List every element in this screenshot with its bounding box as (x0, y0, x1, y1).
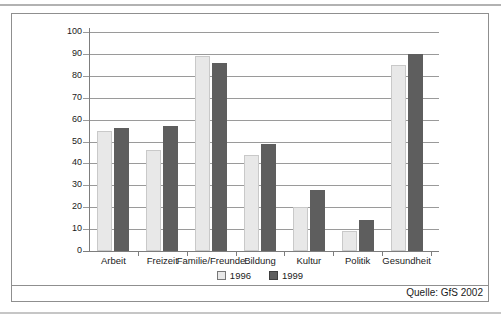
legend: 19961999 (89, 270, 431, 281)
bar-1999-Arbeit (114, 128, 129, 251)
bar-1999-Kultur (310, 190, 325, 251)
bar-1996-Bildung (244, 155, 259, 251)
gridline (83, 54, 439, 55)
page-rule-top (0, 4, 501, 6)
legend-item-1999: 1999 (269, 270, 303, 281)
gridline (83, 32, 439, 33)
legend-swatch (217, 271, 226, 280)
gridline (83, 76, 439, 77)
x-axis-line (83, 251, 439, 252)
bar-1999-Politik (359, 220, 374, 251)
bar-1996-Arbeit (97, 131, 112, 252)
y-tick-label: 100 (42, 26, 82, 37)
bar-1999-Familie/Freunde (212, 63, 227, 251)
bar-1999-Gesundheit (408, 54, 423, 251)
y-tick-label: 70 (42, 92, 82, 103)
y-tick-label: 60 (42, 114, 82, 125)
bar-1996-Kultur (293, 207, 308, 251)
category-label: Gesundheit (347, 255, 467, 267)
gridline (83, 120, 439, 121)
bar-1999-Bildung (261, 144, 276, 251)
legend-label: 1999 (282, 270, 303, 281)
bar-1996-Gesundheit (391, 65, 406, 251)
gridline (83, 142, 439, 143)
y-tick-label: 10 (42, 223, 82, 234)
y-tick-label: 20 (42, 201, 82, 212)
bar-1996-Familie/Freunde (195, 56, 210, 251)
y-tick-label: 80 (42, 70, 82, 81)
bar-chart: 0102030405060708090100ArbeitFreizeitFami… (12, 14, 488, 287)
y-tick-label: 40 (42, 157, 82, 168)
source-caption-text: Quelle: GfS 2002 (406, 287, 483, 298)
y-tick-label: 50 (42, 136, 82, 147)
bar-1996-Politik (342, 231, 357, 251)
source-caption: Quelle: GfS 2002 (12, 285, 488, 301)
y-axis-line (89, 28, 90, 251)
legend-swatch (269, 271, 278, 280)
page-rule-bottom (0, 312, 501, 314)
gridline (83, 98, 439, 99)
legend-item-1996: 1996 (217, 270, 251, 281)
y-tick-label: 30 (42, 179, 82, 190)
legend-label: 1996 (230, 270, 251, 281)
bar-1996-Freizeit (146, 150, 161, 251)
y-tick-label: 90 (42, 48, 82, 59)
figure-frame: 0102030405060708090100ArbeitFreizeitFami… (11, 13, 489, 302)
bar-1999-Freizeit (163, 126, 178, 251)
